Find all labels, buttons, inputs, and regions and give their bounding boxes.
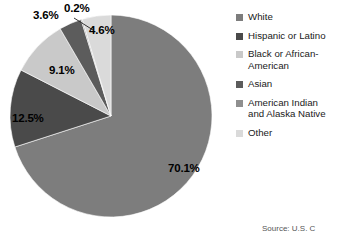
pie-slice-value-label: 0.2% xyxy=(64,3,89,15)
pie-slice-value-label: 4.6% xyxy=(89,25,114,37)
legend-item[interactable]: Other xyxy=(236,127,348,139)
pie-slice-value-label: 12.5% xyxy=(12,113,44,125)
pie-slice-value-label: 70.1% xyxy=(168,163,200,175)
legend-swatch-icon xyxy=(236,100,243,107)
legend-item[interactable]: American Indian and Alaska Native xyxy=(236,97,348,120)
pie-slice-value-label: 9.1% xyxy=(49,65,74,77)
pie-slice-value-label: 3.6% xyxy=(33,10,58,22)
legend-item[interactable]: White xyxy=(236,11,348,23)
legend-item-label: White xyxy=(248,11,273,23)
legend-item[interactable]: Hispanic or Latino xyxy=(236,30,348,42)
legend-swatch-icon xyxy=(236,33,243,40)
legend-item-label: Other xyxy=(248,127,272,139)
pie-chart-figure: 70.1%12.5%9.1%3.6%0.2%4.6% WhiteHispanic… xyxy=(0,0,348,232)
pie-plot-area: 70.1%12.5%9.1%3.6%0.2%4.6% xyxy=(0,0,232,232)
legend-swatch-icon xyxy=(236,130,243,137)
legend-item-label: Black or African- American xyxy=(248,48,319,71)
legend-item[interactable]: Asian xyxy=(236,78,348,90)
legend-item-label: Asian xyxy=(248,78,272,90)
legend-item[interactable]: Black or African- American xyxy=(236,48,348,71)
legend-item-label: Hispanic or Latino xyxy=(248,30,326,42)
legend: WhiteHispanic or LatinoBlack or African-… xyxy=(236,11,348,145)
legend-item-label: American Indian and Alaska Native xyxy=(248,97,326,120)
source-note: Source: U.S. C xyxy=(262,224,315,232)
legend-swatch-icon xyxy=(236,81,243,88)
legend-swatch-icon xyxy=(236,51,243,58)
legend-swatch-icon xyxy=(236,14,243,21)
